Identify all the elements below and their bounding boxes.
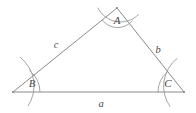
triangle-graphic	[0, 0, 196, 113]
side-label-b: b	[155, 45, 160, 56]
side-label-a: a	[98, 99, 103, 110]
triangle-diagram: A B C a b c	[0, 0, 196, 113]
vertex-c-dot	[183, 91, 185, 93]
side-b-line	[117, 8, 184, 92]
vertex-b-dot	[12, 91, 14, 93]
vertex-a-dot	[116, 7, 118, 9]
vertex-label-c: C	[164, 78, 171, 89]
side-label-c: c	[54, 40, 59, 51]
vertex-label-b: B	[29, 78, 36, 89]
vertex-label-a: A	[114, 15, 121, 26]
